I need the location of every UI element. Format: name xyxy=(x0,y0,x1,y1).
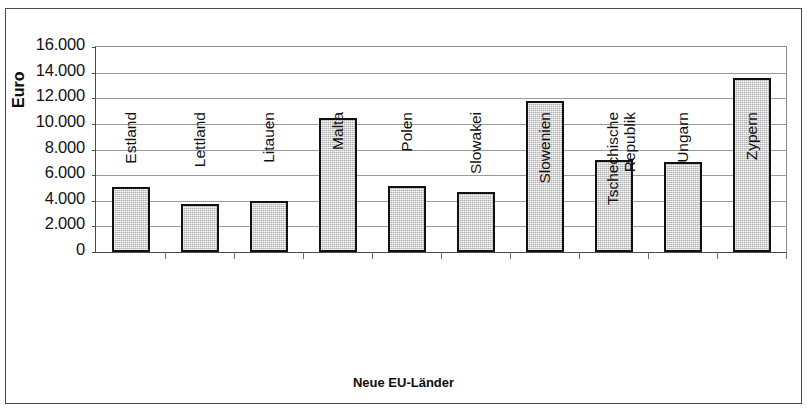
y-tick-label: 8.000 xyxy=(0,138,85,157)
y-tick-mark xyxy=(92,150,96,151)
x-axis-title: Neue EU-Länder xyxy=(0,375,807,390)
x-tick-mark xyxy=(510,252,511,259)
x-tick-label: Lettland xyxy=(191,112,208,262)
x-tick-mark xyxy=(579,252,580,259)
x-tick-mark xyxy=(234,252,235,259)
y-tick-label: 16.000 xyxy=(0,35,85,54)
x-tick-label: Zypern xyxy=(743,112,760,262)
gridline xyxy=(96,73,786,74)
y-tick-mark xyxy=(92,73,96,74)
x-tick-label: TschechischeRepublik xyxy=(604,112,638,262)
y-tick-label: 14.000 xyxy=(0,61,85,80)
x-tick-mark xyxy=(165,252,166,259)
y-tick-mark xyxy=(92,175,96,176)
gridline xyxy=(96,98,786,99)
x-tick-label: Malta xyxy=(329,112,346,262)
x-tick-mark xyxy=(372,252,373,259)
y-tick-mark xyxy=(92,124,96,125)
x-tick-mark xyxy=(441,252,442,259)
x-tick-mark xyxy=(717,252,718,259)
y-tick-label: 12.000 xyxy=(0,86,85,105)
x-tick-label: Estland xyxy=(122,112,139,262)
y-tick-mark xyxy=(92,201,96,202)
x-tick-label: Slowenien xyxy=(536,112,553,262)
x-tick-label: Ungarn xyxy=(674,112,691,262)
y-tick-label: 2.000 xyxy=(0,214,85,233)
y-tick-label: 0 xyxy=(0,240,85,259)
x-tick-label: Litauen xyxy=(260,112,277,262)
x-tick-mark xyxy=(648,252,649,259)
x-tick-label: Slowakei xyxy=(467,112,484,262)
x-tick-mark xyxy=(303,252,304,259)
x-tick-label: Polen xyxy=(398,112,415,262)
y-tick-mark xyxy=(92,226,96,227)
y-tick-mark xyxy=(92,47,96,48)
y-tick-label: 10.000 xyxy=(0,112,85,131)
y-tick-mark xyxy=(92,98,96,99)
y-tick-label: 6.000 xyxy=(0,163,85,182)
y-tick-label: 4.000 xyxy=(0,189,85,208)
x-tick-mark xyxy=(786,252,787,259)
y-tick-mark xyxy=(92,252,96,253)
